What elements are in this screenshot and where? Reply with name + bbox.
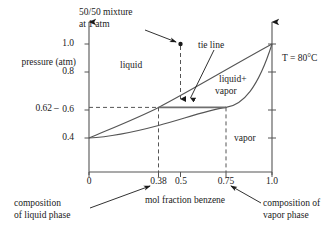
x-tick-label-1.0: 1.0: [259, 176, 285, 187]
mixture-note-line1: 50/50 mixture: [79, 7, 133, 18]
highlight-pressure-label: 0.62: [4, 103, 52, 114]
x-tick-label-0.75: 0.75: [211, 176, 241, 187]
tie-line-leader: [191, 50, 215, 98]
tie-line-label: tie line: [198, 40, 224, 51]
y-tick-label-1.0: 1.0: [36, 38, 74, 49]
liquid-composition-note-line2: of liquid phase: [14, 210, 70, 221]
x-axis-title: mol fraction benzene: [130, 195, 240, 206]
liquid-region-label: liquid: [120, 60, 142, 71]
phase-diagram-figure: pressure (atm) 1.0 0.8 0.6 0.4 0.62 – 0 …: [0, 0, 335, 234]
y-tick-label-0.8: 0.8: [36, 66, 74, 77]
vapor-region-label: vapor: [234, 133, 256, 144]
x-tick-label-0: 0: [79, 176, 99, 187]
temperature-condition-label: T = 80°C: [282, 53, 317, 64]
mixture-point-marker: [178, 42, 182, 46]
liquid-vapor-region-label-line2: vapor: [215, 86, 237, 97]
highlight-pressure-dash: –: [54, 103, 59, 114]
liquid-composition-note-line1: composition: [14, 198, 61, 209]
y-tick-label-0.4: 0.4: [36, 132, 74, 143]
vapor-composition-note-line1: composition of: [263, 198, 320, 209]
mixture-note-leader: [145, 30, 176, 42]
x-tick-label-0.5: 0.5: [169, 176, 193, 187]
mixture-note-line2: at 1 atm: [79, 19, 110, 30]
liquid-vapor-region-label-line1: liquid+: [219, 74, 247, 85]
vapor-composition-note-line2: vapor phase: [263, 210, 309, 221]
